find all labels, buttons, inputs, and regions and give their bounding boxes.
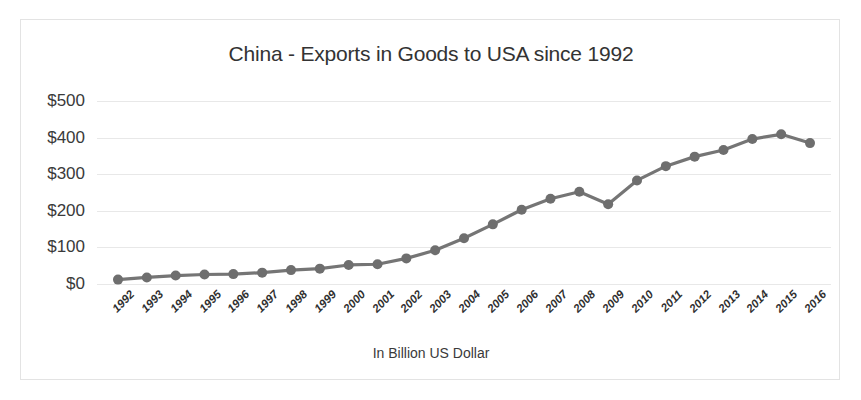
data-point-marker: 2010: $283B: [632, 175, 642, 185]
data-point-marker: 2016: $385B: [805, 138, 815, 148]
x-axis-tick-label: 2002: [398, 288, 425, 315]
x-axis-tick-label: 1994: [168, 288, 195, 315]
data-point-marker: 1994: $23B: [171, 271, 181, 281]
y-axis: $0$100$200$300$400$500: [21, 101, 93, 284]
data-point-marker: 2014: $396B: [747, 134, 757, 144]
x-axis-tick-label: 2015: [773, 288, 800, 315]
data-point-marker: 1993: $18B: [142, 272, 152, 282]
data-point-marker: 2013: $366B: [719, 145, 729, 155]
data-point-marker: 2012: $348B: [690, 152, 700, 162]
plot-area: 1992: $12B1993: $18B1994: $23B1995: $26B…: [97, 101, 831, 284]
x-axis-tick-label: 2001: [369, 288, 396, 315]
x-axis-tick-label: 2007: [542, 288, 569, 315]
x-axis-tick-label: 2010: [629, 288, 656, 315]
y-axis-tick-label: $100: [47, 237, 85, 257]
y-axis-tick-label: $400: [47, 128, 85, 148]
y-axis-tick-label: $200: [47, 201, 85, 221]
x-axis-tick-label: 2016: [802, 288, 829, 315]
y-axis-tick-label: $300: [47, 164, 85, 184]
data-point-marker: 2007: $233B: [546, 194, 556, 204]
line-series-exports: 1992: $12B1993: $18B1994: $23B1995: $26B…: [97, 101, 831, 284]
x-axis-tick-label: 2005: [485, 288, 512, 315]
x-axis-tick-label: 2006: [514, 288, 541, 315]
x-axis-tick-label: 2009: [600, 288, 627, 315]
x-axis-tick-label: 1995: [196, 288, 223, 315]
x-axis-tick-label: 2008: [571, 288, 598, 315]
x-axis-tick-label: 1992: [110, 288, 137, 315]
x-axis-tick-label: 2004: [456, 288, 483, 315]
x-axis-tick-label: 1993: [139, 288, 166, 315]
chart-title: China - Exports in Goods to USA since 19…: [21, 42, 841, 66]
series-line: [118, 134, 810, 279]
gridline: [97, 284, 831, 285]
data-point-marker: 1998: $38B: [286, 265, 296, 275]
data-point-marker: 2004: $125B: [459, 233, 469, 243]
data-point-marker: 1992: $12B: [113, 275, 123, 285]
data-point-marker: 2015: $409B: [776, 129, 786, 139]
x-axis-tick-label: 2014: [744, 288, 771, 315]
data-point-marker: 1996: $27B: [228, 269, 238, 279]
data-point-marker: 2005: $163B: [488, 219, 498, 229]
data-point-marker: 2009: $218B: [603, 199, 613, 209]
x-axis-tick-label: 2000: [341, 288, 368, 315]
x-axis-tick-label: 1997: [254, 288, 281, 315]
y-axis-tick-label: $500: [47, 91, 85, 111]
x-axis-tick-label: 1999: [312, 288, 339, 315]
x-axis-tick-label: 2003: [427, 288, 454, 315]
x-axis-tick-label: 2012: [687, 288, 714, 315]
data-point-marker: 2011: $322B: [661, 161, 671, 171]
data-point-marker: 2003: $92B: [430, 245, 440, 255]
x-axis-title: In Billion US Dollar: [21, 345, 841, 361]
x-axis-tick-label: 1998: [283, 288, 310, 315]
x-axis-tick-label: 2013: [715, 288, 742, 315]
data-point-marker: 2008: $252B: [574, 187, 584, 197]
y-axis-tick-label: $0: [66, 274, 85, 294]
x-axis-tick-label: 1996: [225, 288, 252, 315]
x-axis: 1992199319941995199619971998199920002001…: [97, 288, 831, 336]
data-point-marker: 2002: $70B: [401, 253, 411, 263]
chart-container: China - Exports in Goods to USA since 19…: [20, 19, 840, 380]
data-point-marker: 1995: $26B: [200, 269, 210, 279]
data-point-marker: 1999: $42B: [315, 264, 325, 274]
data-point-marker: 1997: $31B: [257, 268, 267, 278]
x-axis-tick-label: 2011: [658, 288, 684, 314]
data-point-marker: 2000: $52B: [344, 260, 354, 270]
data-point-marker: 2006: $203B: [517, 205, 527, 215]
data-point-marker: 2001: $54B: [373, 259, 383, 269]
